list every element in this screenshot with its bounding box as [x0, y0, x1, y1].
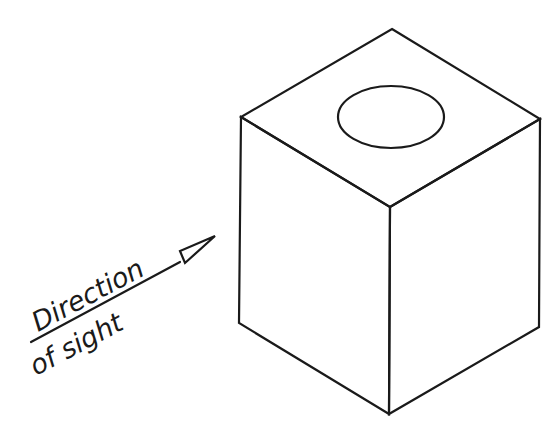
cube-right-face: [389, 119, 540, 414]
isometric-diagram: Direction of sight: [0, 0, 558, 426]
direction-of-sight-indicator: Direction of sight: [24, 236, 215, 381]
cube-top-face: [241, 29, 540, 207]
cube-left-face: [239, 117, 390, 414]
top-hole-ellipse: [338, 86, 444, 148]
cube: [239, 29, 540, 414]
sight-arrow-head-icon: [180, 236, 215, 263]
